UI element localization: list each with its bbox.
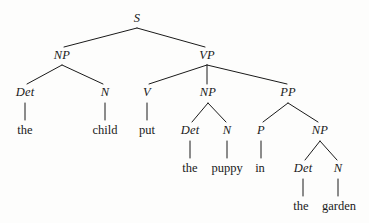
tree-leaf-child: child [93,124,118,137]
tree-branch-s-to-vp [137,28,205,47]
tree-node-np2: NP [200,86,216,99]
tree-branch-s-to-np1 [64,28,137,47]
tree-node-np3: NP [312,124,328,137]
tree-node-n3: N [334,162,343,175]
tree-leaf-garden: garden [322,200,356,213]
tree-node-det1: Det [16,86,35,99]
tree-branch-pp-to-np3 [288,103,318,122]
tree-branch-vp-to-pp [207,65,287,84]
tree-branch-pp-to-p [263,103,288,122]
tree-node-np1: NP [54,49,70,62]
tree-branch-np1-to-det1 [27,65,62,84]
tree-branch-np1-to-n1 [62,65,103,84]
tree-node-s: S [134,12,140,25]
tree-node-p: P [257,124,265,137]
syntax-tree-figure: SNPVPDetNVNPPPthechildputDetNPNPthepuppy… [0,0,369,223]
tree-leaf-put: put [139,124,155,137]
tree-branch-np3-to-n3 [320,141,337,160]
tree-edges-layer [0,0,369,223]
tree-node-det2: Det [181,124,200,137]
tree-leaf-the2: the [182,162,197,175]
tree-branch-np2-to-det2 [192,103,208,122]
tree-branch-np3-to-det3 [305,141,320,160]
tree-node-pp: PP [280,86,296,99]
tree-node-det3: Det [294,162,313,175]
tree-branch-np2-to-n2 [208,103,226,122]
tree-branch-vp-to-v [149,65,207,84]
tree-node-vp: VP [199,49,215,62]
tree-node-v: V [143,86,151,99]
tree-node-n2: N [223,124,232,137]
tree-leaf-the1: the [17,124,32,137]
tree-leaf-puppy: puppy [211,162,242,175]
tree-leaf-the3: the [293,200,308,213]
tree-leaf-in: in [255,162,265,175]
tree-node-n1: N [101,86,110,99]
